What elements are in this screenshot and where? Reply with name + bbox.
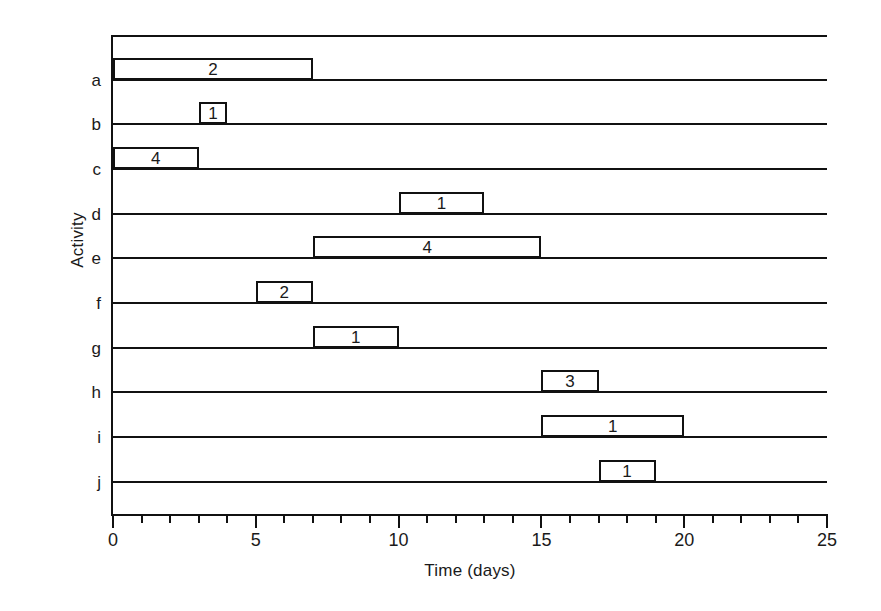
y-axis-title: Activity [68, 180, 88, 300]
gridline-g [113, 347, 827, 349]
y-tick-label-f: f [96, 295, 101, 312]
task-bar-c[interactable]: 4 [113, 147, 199, 169]
y-axis-line [111, 35, 113, 514]
y-tick-label-j: j [97, 473, 101, 490]
task-bar-e[interactable]: 4 [313, 236, 541, 258]
x-tick-3 [198, 514, 200, 523]
task-bar-i[interactable]: 1 [541, 415, 684, 437]
x-tick-23 [769, 514, 771, 523]
x-tick-2 [169, 514, 171, 523]
task-bar-label-e: 4 [315, 239, 539, 256]
y-tick-label-b: b [92, 116, 101, 133]
x-axis-title: Time (days) [113, 561, 827, 581]
task-bar-g[interactable]: 1 [313, 326, 399, 348]
y-tick-label-g: g [92, 339, 101, 356]
gantt-chart: Activity abcdefghij 0510152025 214142131… [0, 0, 881, 611]
gridline-f [113, 302, 827, 304]
task-bar-label-f: 2 [258, 284, 311, 301]
x-tick-label-10: 10 [389, 531, 409, 549]
x-tick-19 [655, 514, 657, 523]
x-tick-11 [426, 514, 428, 523]
task-bar-f[interactable]: 2 [256, 281, 313, 303]
task-bar-label-j: 1 [601, 462, 654, 479]
x-tick-label-0: 0 [108, 531, 118, 549]
x-tick-9 [369, 514, 371, 523]
plot-top-border [111, 35, 827, 37]
task-bar-j[interactable]: 1 [599, 460, 656, 482]
task-bar-label-d: 1 [401, 194, 483, 211]
x-tick-10 [398, 514, 400, 528]
gridline-i [113, 436, 827, 438]
x-tick-0 [112, 514, 114, 528]
task-bar-label-g: 1 [315, 328, 397, 345]
y-tick-label-c: c [93, 161, 102, 178]
y-tick-label-i: i [97, 429, 101, 446]
task-bar-d[interactable]: 1 [399, 192, 485, 214]
x-tick-15 [540, 514, 542, 528]
task-bar-label-c: 4 [115, 150, 197, 167]
task-bar-b[interactable]: 1 [199, 102, 228, 124]
x-axis-line [111, 514, 827, 516]
x-tick-22 [740, 514, 742, 523]
y-tick-label-a: a [92, 71, 101, 88]
x-tick-25 [826, 514, 828, 528]
task-bar-label-b: 1 [201, 105, 226, 122]
x-tick-8 [340, 514, 342, 523]
plot-area: abcdefghij 0510152025 2141421311 [113, 35, 827, 514]
x-tick-12 [455, 514, 457, 523]
x-tick-4 [226, 514, 228, 523]
x-tick-label-20: 20 [674, 531, 694, 549]
x-tick-17 [598, 514, 600, 523]
x-tick-21 [712, 514, 714, 523]
task-bar-label-a: 2 [115, 60, 311, 77]
gridline-j [113, 481, 827, 483]
gridline-h [113, 391, 827, 393]
y-tick-label-e: e [92, 250, 101, 267]
x-tick-13 [483, 514, 485, 523]
y-tick-label-h: h [92, 384, 101, 401]
x-tick-14 [512, 514, 514, 523]
x-tick-18 [626, 514, 628, 523]
task-bar-label-h: 3 [543, 373, 596, 390]
gridline-c [113, 168, 827, 170]
x-tick-6 [283, 514, 285, 523]
x-tick-label-5: 5 [251, 531, 261, 549]
x-tick-7 [312, 514, 314, 523]
x-tick-5 [255, 514, 257, 528]
task-bar-label-i: 1 [543, 418, 682, 435]
task-bar-h[interactable]: 3 [541, 370, 598, 392]
x-tick-16 [569, 514, 571, 523]
x-tick-20 [683, 514, 685, 528]
x-tick-1 [141, 514, 143, 523]
x-tick-24 [797, 514, 799, 523]
x-tick-label-25: 25 [817, 531, 837, 549]
task-bar-a[interactable]: 2 [113, 58, 313, 80]
x-tick-label-15: 15 [531, 531, 551, 549]
y-tick-label-d: d [92, 205, 101, 222]
